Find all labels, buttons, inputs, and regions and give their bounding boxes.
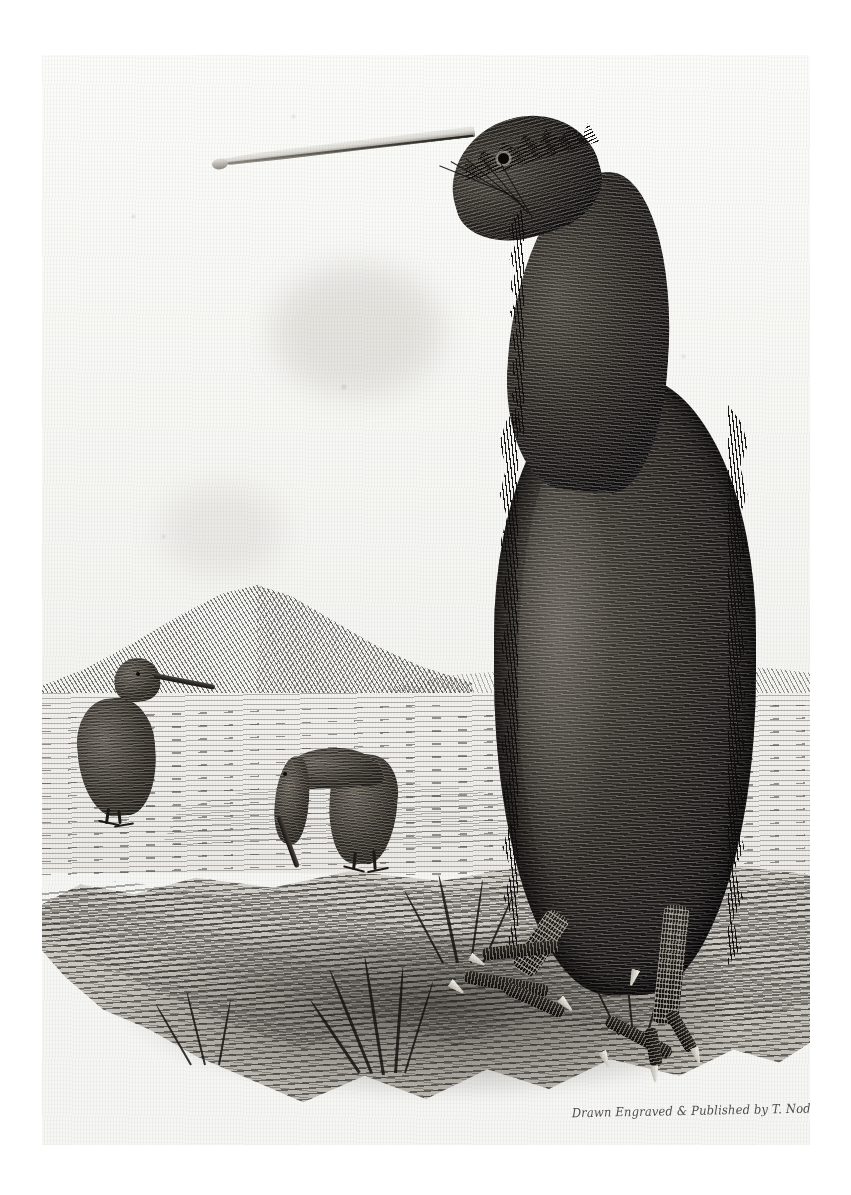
kiwi-probing bbox=[257, 700, 437, 860]
kiwi-claw bbox=[447, 979, 466, 996]
foxing-speck bbox=[132, 215, 135, 218]
kiwi-probing-neck bbox=[271, 755, 313, 846]
kiwi-claw bbox=[627, 968, 640, 987]
bill-tip bbox=[211, 157, 228, 170]
kiwi-claw bbox=[650, 1065, 661, 1083]
foxing-speck bbox=[162, 535, 165, 538]
kiwi-probing-eye bbox=[283, 772, 287, 776]
kiwi-claw bbox=[690, 1046, 704, 1065]
kiwi-eye bbox=[498, 153, 509, 164]
foxing-speck bbox=[602, 185, 605, 188]
foxing-speck bbox=[682, 355, 685, 358]
foxing-speck bbox=[742, 575, 745, 578]
engraving-plate: Drawn Engraved & Published by T. Nodder. bbox=[42, 55, 810, 1145]
kiwi-claw bbox=[598, 1050, 614, 1069]
kiwi-standing-eye bbox=[136, 672, 140, 676]
paper-stain bbox=[162, 485, 282, 575]
kiwi-standing bbox=[62, 650, 192, 830]
foxing-speck bbox=[342, 385, 346, 389]
kiwi-body-highlight bbox=[518, 455, 614, 895]
kiwi-standing-body bbox=[73, 695, 161, 819]
engraving-page: Drawn Engraved & Published by T. Nodder. bbox=[0, 0, 851, 1195]
grass-tuft bbox=[172, 985, 282, 1065]
kiwi-leg-left bbox=[442, 930, 622, 1040]
kiwi-leg-right bbox=[598, 935, 778, 1105]
foxing-speck bbox=[292, 115, 295, 118]
paper-stain bbox=[272, 265, 442, 395]
engraver-inscription: Drawn Engraved & Published by T. Nodder. bbox=[572, 1101, 801, 1131]
kiwi-foreground bbox=[422, 75, 810, 1075]
